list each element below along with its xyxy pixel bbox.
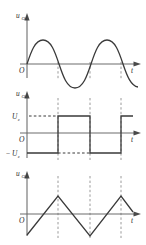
panel-2-y-label-sub: O2 <box>22 94 29 99</box>
panel-1-y-label-var: u <box>16 11 20 20</box>
panel-2-origin-label: O <box>19 135 25 144</box>
panel-3-y-label-sub: O3 <box>22 174 29 179</box>
panel-2-positive-level-sub: z <box>17 117 20 122</box>
panel-1-y-label-sub: O1 <box>22 16 28 21</box>
panel-3-x-axis-arrow <box>134 211 142 216</box>
panel-2-x-axis-arrow <box>134 130 142 135</box>
waveform-svg: u O1 O t u O2 U z O − U z <box>0 0 146 245</box>
panel-3-origin-label: O <box>19 216 25 225</box>
panel-2-negative-level-sub: z <box>17 154 20 159</box>
panel-1-origin-label: O <box>19 66 25 75</box>
panel-1-x-label: t <box>131 66 134 75</box>
panel-3-y-label-var: u <box>16 169 20 178</box>
panel-3-x-label: t <box>131 216 134 225</box>
panel-1-x-axis-arrow <box>134 61 142 66</box>
panel-2-negative-level-sign: − <box>6 149 11 158</box>
panel-1: u O1 O t <box>16 11 141 88</box>
panel-3: u O3 O t <box>16 169 141 236</box>
panel-2-square-wave <box>27 116 133 153</box>
panel-2-y-label-var: u <box>16 89 20 98</box>
panel-2-x-label: t <box>131 135 134 144</box>
waveform-figure: u O1 O t u O2 U z O − U z <box>0 0 146 245</box>
panel-3-triangle-wave <box>27 196 133 236</box>
